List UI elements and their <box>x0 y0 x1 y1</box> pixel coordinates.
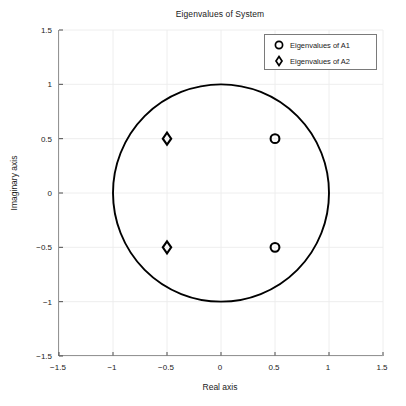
plot-canvas <box>59 30 383 356</box>
legend-label-a1: Eigenvalues of A1 <box>288 41 350 50</box>
x-tick-label: −1.5 <box>50 363 66 372</box>
gridlines <box>59 30 383 356</box>
y-tick-label: −1.5 <box>14 352 52 361</box>
x-tick-label: 0 <box>218 363 222 372</box>
plot-area <box>58 30 382 356</box>
circle-icon <box>270 38 288 52</box>
y-tick-label: 1.5 <box>14 26 52 35</box>
y-tick-label: 0.5 <box>14 134 52 143</box>
legend-item-a2: Eigenvalues of A2 <box>265 53 376 69</box>
y-tick-label: 0 <box>14 189 52 198</box>
x-tick-label: 1.5 <box>376 363 387 372</box>
legend: Eigenvalues of A1 Eigenvalues of A2 <box>264 34 377 70</box>
x-tick-label: −1 <box>107 363 116 372</box>
legend-label-a2: Eigenvalues of A2 <box>288 57 350 66</box>
x-tick-label: 0.5 <box>268 363 279 372</box>
y-tick-label: 1 <box>14 80 52 89</box>
diamond-icon <box>270 54 288 68</box>
eigenvalue-plot-figure: Eigenvalues of System 1.510.50−0.5−1−1.5… <box>0 0 406 406</box>
x-axis-title: Real axis <box>58 382 382 392</box>
y-tick-label: −0.5 <box>14 243 52 252</box>
y-axis-title: Imaginary axis <box>9 123 19 243</box>
chart-title: Eigenvalues of System <box>58 9 382 19</box>
x-tick-label: −0.5 <box>158 363 174 372</box>
x-tick-label: 1 <box>326 363 330 372</box>
y-tick-label: −1 <box>14 297 52 306</box>
legend-item-a1: Eigenvalues of A1 <box>265 37 376 53</box>
